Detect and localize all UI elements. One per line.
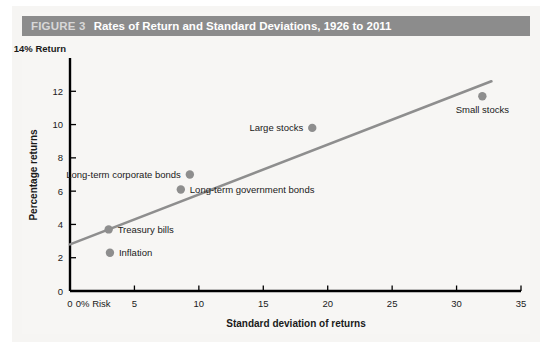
data-point: Long-term government bonds <box>177 184 315 195</box>
figure-root: FIGURE 3 Rates of Return and Standard De… <box>0 0 552 355</box>
y-tick-label: 2 <box>58 252 63 263</box>
data-point: Inflation <box>106 247 152 258</box>
x-axis-title: Standard deviation of returns <box>226 318 366 329</box>
x-tick-label: 10 <box>194 298 205 309</box>
x-axis-origin-annotation: 0% Risk <box>76 298 111 309</box>
x-tick-label: 5 <box>132 298 137 309</box>
y-tick-label: 8 <box>58 152 63 163</box>
data-point-label: Large stocks <box>249 122 303 133</box>
chart-plot-area: 05101520253035 024681012 14% Return 0% R… <box>0 0 552 355</box>
x-tick-label: 15 <box>258 298 269 309</box>
data-point-label: Long-term government bonds <box>190 184 315 195</box>
y-axis-title: Percentage returns <box>28 129 39 221</box>
x-axis-ticks: 05101520253035 <box>67 286 526 310</box>
y-axis-top-annotation: 14% Return <box>14 43 66 54</box>
x-tick-label: 0 <box>67 298 72 309</box>
data-point-marker <box>104 225 112 233</box>
x-tick-label: 20 <box>322 298 333 309</box>
x-tick-label: 35 <box>516 298 527 309</box>
x-tick-label: 25 <box>387 298 398 309</box>
trend-line <box>70 81 491 244</box>
y-tick-label: 6 <box>58 186 63 197</box>
y-axis-ticks: 024681012 <box>52 86 76 297</box>
data-point-label: Long-term corporate bonds <box>66 169 181 180</box>
data-point: Long-term corporate bonds <box>66 169 194 180</box>
data-point-marker <box>106 249 114 257</box>
y-tick-label: 10 <box>52 119 63 130</box>
data-point-group: InflationTreasury billsLong-term governm… <box>66 92 509 258</box>
data-point: Small stocks <box>456 92 510 115</box>
y-tick-label: 0 <box>58 286 63 297</box>
data-point-marker <box>478 92 486 100</box>
data-point-marker <box>308 124 316 132</box>
data-point-marker <box>186 170 194 178</box>
data-point: Treasury bills <box>104 224 174 235</box>
data-point-label: Inflation <box>119 247 152 258</box>
data-point-label: Small stocks <box>456 104 510 115</box>
y-tick-label: 12 <box>52 86 63 97</box>
data-point: Large stocks <box>249 122 316 133</box>
y-tick-label: 4 <box>58 219 63 230</box>
scatter-chart: 05101520253035 024681012 14% Return 0% R… <box>0 0 552 355</box>
data-point-marker <box>177 185 185 193</box>
x-tick-label: 30 <box>451 298 462 309</box>
data-point-label: Treasury bills <box>118 224 174 235</box>
